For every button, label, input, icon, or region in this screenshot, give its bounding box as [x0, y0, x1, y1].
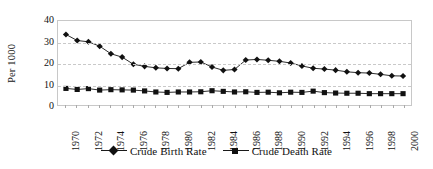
y-tick-label: 0 [32, 101, 54, 111]
data-point-square [311, 89, 316, 94]
x-tick-mark [167, 105, 168, 108]
legend-item-label: Crude Death Rate [252, 145, 332, 157]
data-point-square [277, 90, 282, 95]
data-point-diamond [344, 69, 350, 75]
data-point-diamond [310, 65, 316, 71]
data-point-square [299, 90, 304, 95]
data-point-square [322, 90, 327, 95]
x-tick-mark [393, 105, 394, 108]
data-point-square [142, 88, 147, 93]
y-tick-label: 40 [32, 15, 54, 25]
x-tick-mark [133, 105, 134, 108]
x-tick-mark [257, 105, 258, 108]
data-point-square [243, 89, 248, 94]
data-point-square [86, 86, 91, 91]
x-tick-mark [144, 105, 145, 108]
data-point-square [131, 88, 136, 93]
x-tick-mark [370, 105, 371, 108]
x-tick-mark [381, 105, 382, 108]
y-tick-label: 20 [32, 58, 54, 68]
data-point-square [108, 87, 113, 92]
legend-item-crude-birth-rate: Crude Birth Rate [101, 145, 207, 157]
x-tick-mark [122, 105, 123, 108]
data-point-square [400, 91, 405, 96]
data-point-diamond [220, 67, 226, 73]
x-tick-mark [302, 105, 303, 108]
data-point-diamond [97, 43, 103, 49]
data-point-square [198, 89, 203, 94]
y-tick-label: 10 [32, 80, 54, 90]
x-tick-mark [76, 105, 77, 108]
data-point-diamond [108, 51, 114, 57]
data-point-diamond [366, 70, 372, 76]
data-point-diamond [153, 65, 159, 71]
data-point-diamond [400, 73, 406, 79]
series-layer [58, 21, 411, 105]
data-point-diamond [164, 65, 170, 71]
data-point-diamond [389, 73, 395, 79]
data-point-square [75, 87, 80, 92]
data-point-square [187, 89, 192, 94]
data-point-square [153, 89, 158, 94]
x-tick-mark [359, 105, 360, 108]
x-tick-mark [325, 105, 326, 108]
data-point-diamond [265, 57, 271, 63]
x-tick-mark [189, 105, 190, 108]
x-tick-mark [65, 105, 66, 108]
data-point-diamond [63, 31, 69, 37]
data-point-diamond [355, 70, 361, 76]
plot-area [57, 20, 412, 106]
x-tick-mark [88, 105, 89, 108]
y-axis-title: Per 1000 [4, 20, 20, 106]
x-tick-mark [314, 105, 315, 108]
chart-figure: Per 1000 010203040 197019721974197619781… [0, 0, 433, 169]
data-point-square [164, 90, 169, 95]
x-tick-mark [223, 105, 224, 108]
x-tick-mark [348, 105, 349, 108]
x-tick-mark [235, 105, 236, 108]
gridline [58, 43, 411, 44]
square-marker-icon [223, 146, 249, 156]
data-point-diamond [288, 60, 294, 66]
data-point-diamond [254, 56, 260, 62]
data-point-diamond [119, 54, 125, 60]
data-point-diamond [321, 66, 327, 72]
data-point-square [232, 89, 237, 94]
x-tick-mark [99, 105, 100, 108]
x-tick-mark [280, 105, 281, 108]
x-tick-mark [246, 105, 247, 108]
data-point-square [333, 90, 338, 95]
legend-item-crude-death-rate: Crude Death Rate [223, 145, 332, 157]
data-point-square [120, 87, 125, 92]
data-point-square [356, 91, 361, 96]
data-point-square [266, 90, 271, 95]
data-point-square [389, 91, 394, 96]
x-tick-mark [404, 105, 405, 108]
gridline [58, 86, 411, 87]
data-point-square [288, 90, 293, 95]
data-point-square [97, 88, 102, 93]
data-point-square [344, 91, 349, 96]
data-point-diamond [175, 66, 181, 72]
data-point-diamond [377, 71, 383, 77]
data-point-square [254, 90, 259, 95]
data-point-square [367, 91, 372, 96]
x-axis-tick-labels: 1970197219741976197819801982198419861988… [57, 109, 412, 141]
x-tick-mark [212, 105, 213, 108]
gridline [58, 64, 411, 65]
x-tick-mark [155, 105, 156, 108]
data-point-square [209, 88, 214, 93]
x-tick-mark [268, 105, 269, 108]
data-point-square [221, 89, 226, 94]
x-tick-mark [291, 105, 292, 108]
data-point-square [378, 91, 383, 96]
chart-legend: Crude Birth Rate Crude Death Rate [0, 143, 433, 159]
y-axis-title-text: Per 1000 [7, 43, 18, 82]
x-tick-mark [201, 105, 202, 108]
x-tick-mark [110, 105, 111, 108]
diamond-marker-icon [101, 146, 127, 156]
data-point-diamond [333, 67, 339, 73]
data-point-square [176, 89, 181, 94]
series-crude-birth-rate [63, 31, 406, 79]
legend-item-label: Crude Birth Rate [130, 145, 207, 157]
